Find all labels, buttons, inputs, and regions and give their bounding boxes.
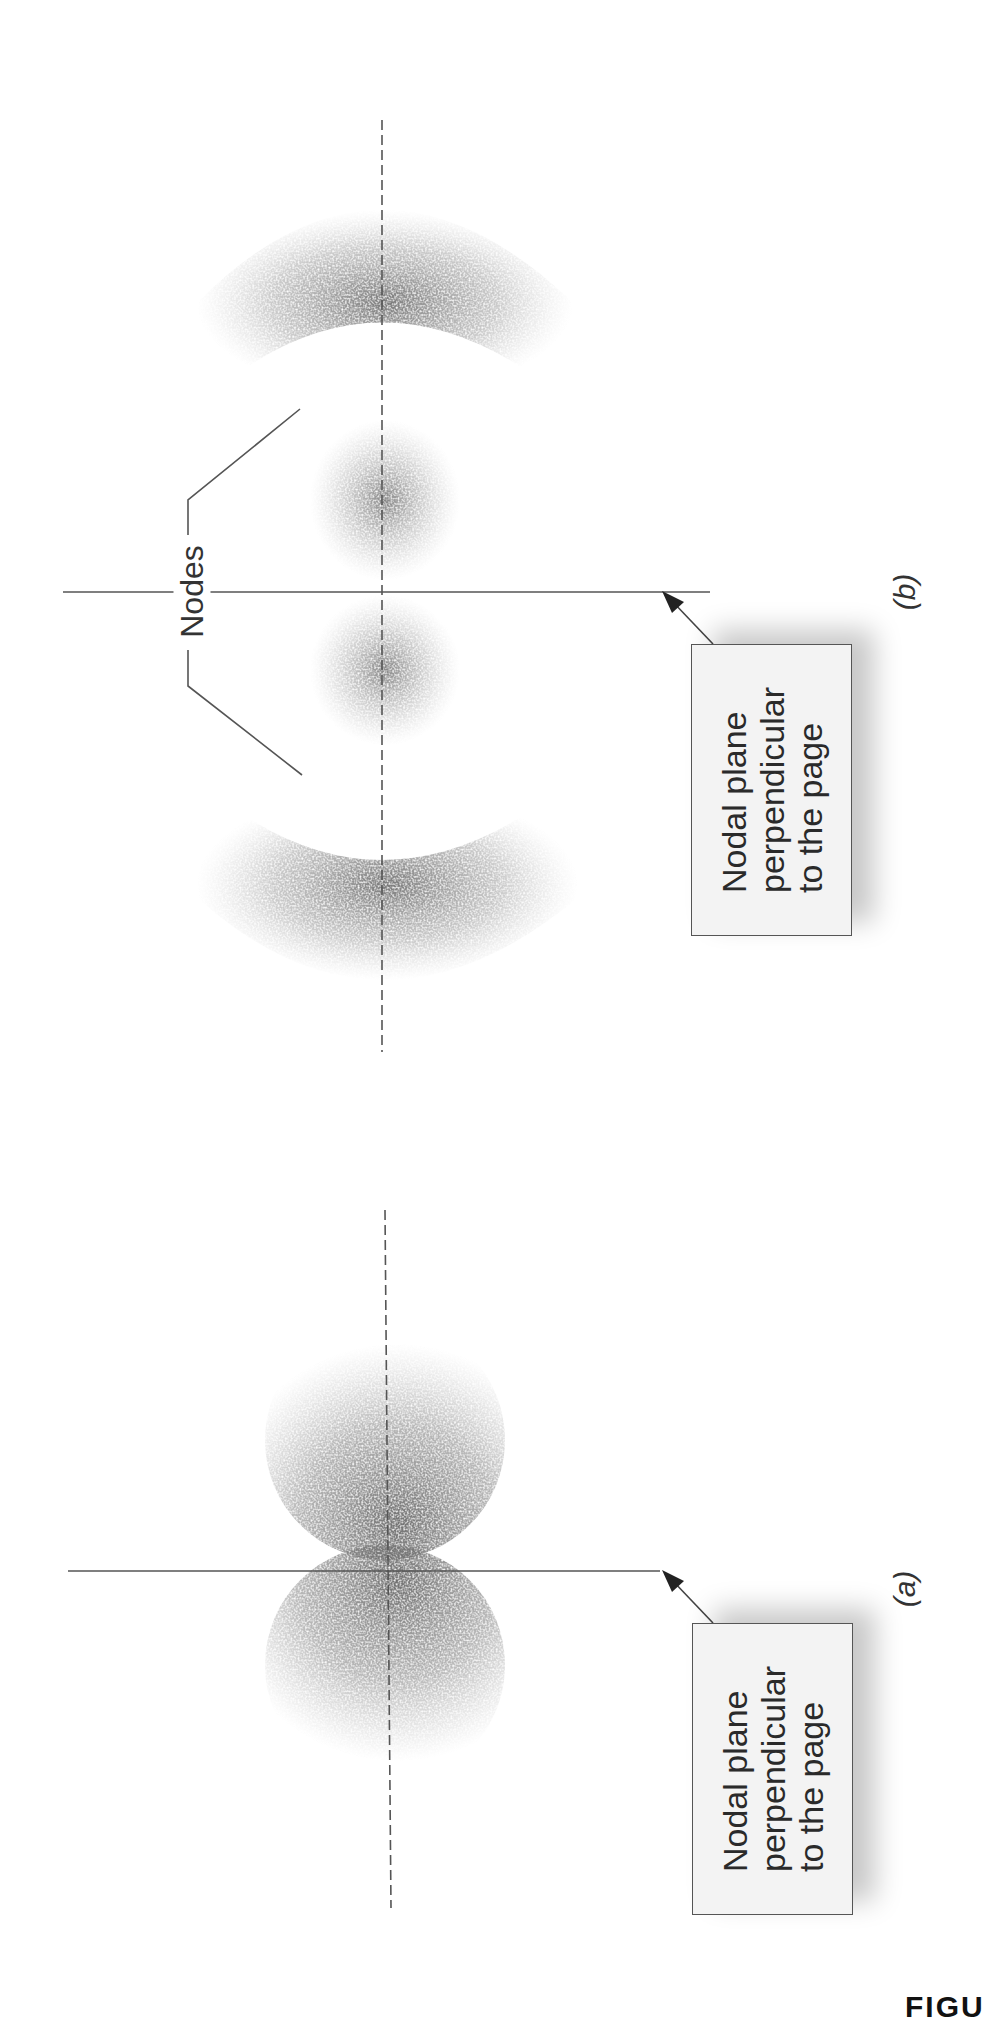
label-line: Nodal plane (716, 1666, 754, 1872)
nodal-plane-label-box-a: Nodal plane perpendicular to the page (692, 1623, 853, 1915)
orbital-lobe-a-upper (265, 1320, 505, 1560)
arrow-shaft-b (672, 601, 713, 644)
nodes-label: Nodes (174, 538, 211, 646)
orbital-lobe-a-lower (265, 1545, 505, 1785)
label-line: perpendicular (754, 1666, 792, 1872)
label-line: perpendicular (753, 687, 791, 893)
label-line: to the page (792, 1666, 830, 1872)
nodal-plane-label-text-b: Nodal plane perpendicular to the page (715, 687, 829, 893)
nodal-plane-label-box-b: Nodal plane perpendicular to the page (691, 644, 852, 936)
nodes-bracket-lower (188, 650, 302, 775)
panel-a-graphics (68, 1210, 713, 1908)
orbital-lobe-outer-lower (197, 790, 578, 980)
orbital-lobe-outer-upper (197, 210, 574, 395)
panel-label-b: (b) (888, 567, 922, 617)
orbital-lobe-inner-lower (310, 595, 460, 745)
orbital-lobe-inner-upper (310, 420, 460, 580)
panel-b-graphics (63, 120, 713, 1052)
nodes-bracket-upper (188, 409, 300, 535)
panel-label-a: (a) (888, 1564, 922, 1614)
label-line: to the page (791, 687, 829, 893)
nodal-plane-label-text-a: Nodal plane perpendicular to the page (716, 1666, 830, 1872)
figure-caption-fragment: FIGU (905, 1990, 983, 2021)
arrow-shaft-a (672, 1580, 713, 1623)
label-line: Nodal plane (715, 687, 753, 893)
